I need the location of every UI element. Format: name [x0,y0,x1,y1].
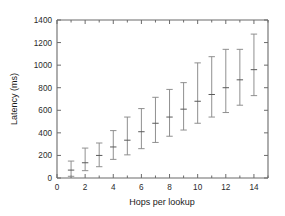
x-tick-label: 0 [55,183,60,192]
y-axis-title: Latency (ms) [9,73,19,125]
x-tick-label: 8 [167,183,172,192]
y-tick-label: 800 [38,84,52,93]
y-tick-label: 1400 [34,16,53,25]
y-tick-label: 200 [38,151,52,160]
y-tick-label: 0 [47,174,52,183]
y-tick-label: 1200 [34,39,53,48]
x-tick-label: 4 [111,183,116,192]
x-tick-label: 14 [249,183,259,192]
y-tick-label: 600 [38,106,52,115]
latency-vs-hops-errorbar-chart: 0200400600800100012001400 02468101214 Ho… [0,0,285,216]
x-tick-label: 2 [83,183,88,192]
y-tick-label: 1000 [34,61,53,70]
y-tick-label: 400 [38,129,52,138]
x-axis-title: Hops per lookup [129,197,195,207]
x-tick-label: 6 [139,183,144,192]
x-tick-label: 10 [193,183,203,192]
chart-figure: 0200400600800100012001400 02468101214 Ho… [0,0,285,216]
x-tick-label: 12 [221,183,231,192]
